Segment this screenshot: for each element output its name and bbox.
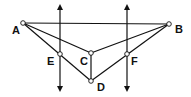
points bbox=[21, 21, 172, 84]
point-label-A: A bbox=[12, 24, 20, 36]
point-label-C: C bbox=[80, 55, 88, 67]
point-C bbox=[89, 51, 94, 56]
segment-BC bbox=[91, 24, 169, 53]
point-B bbox=[167, 22, 172, 27]
point-F bbox=[125, 52, 130, 57]
point-label-E: E bbox=[47, 55, 54, 67]
segment-AD bbox=[23, 23, 91, 81]
point-label-D: D bbox=[97, 81, 105, 93]
segment-AB bbox=[23, 23, 169, 24]
point-D bbox=[89, 79, 94, 84]
triangle-segments bbox=[23, 23, 169, 81]
vertical-arrow-lines bbox=[60, 7, 127, 89]
point-E bbox=[58, 52, 63, 57]
segment-AC bbox=[23, 23, 91, 53]
point-A bbox=[21, 21, 26, 26]
segment-BD bbox=[91, 24, 169, 81]
geometry-diagram: ABCDEF bbox=[0, 0, 191, 97]
point-label-F: F bbox=[131, 55, 138, 67]
point-labels: ABCDEF bbox=[12, 23, 183, 93]
point-label-B: B bbox=[175, 23, 183, 35]
